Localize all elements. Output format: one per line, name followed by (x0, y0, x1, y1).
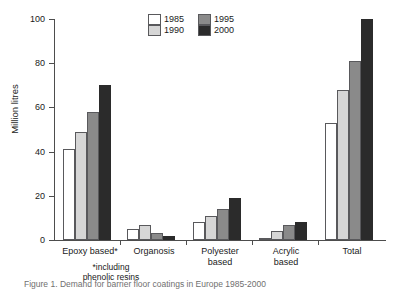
y-axis-title: Million litres (10, 59, 20, 159)
x-label-acrylic: Acrylic based (252, 246, 320, 267)
bar-total-1995 (349, 61, 361, 240)
y-tick-label-100: 100 (30, 15, 45, 24)
bar-acrylic-1985 (259, 238, 271, 240)
plot-area (55, 19, 385, 240)
x-label-acrylic-line1: Acrylic (273, 246, 300, 256)
bar-acrylic-2000 (295, 222, 307, 240)
y-tick-label-0: 0 (40, 236, 45, 245)
y-tick-mark-0 (49, 240, 55, 241)
x-label-polyester: Polyester based (186, 246, 254, 267)
x-label-acrylic-line2: based (274, 257, 299, 267)
y-tick-label-80: 80 (35, 59, 45, 68)
bar-acrylic-1995 (283, 225, 295, 240)
x-label-organosis: Organosis (120, 246, 188, 257)
bar-epoxy-1995 (87, 112, 99, 240)
bar-polyester-1990 (205, 216, 217, 240)
bar-organosis-1990 (139, 225, 151, 240)
bar-total-1990 (337, 90, 349, 240)
bar-group-epoxy-bars (63, 19, 111, 240)
bar-group-polyester-bars (193, 19, 241, 240)
figure-caption: Figure 1. Demand for barrier floor coati… (24, 279, 384, 289)
y-tick-label-20: 20 (35, 192, 45, 201)
y-tick-label-40: 40 (35, 148, 45, 157)
x-tick-separator-2 (186, 240, 187, 245)
bar-epoxy-1985 (63, 149, 75, 240)
bar-epoxy-1990 (75, 132, 87, 240)
x-label-polyester-line2: based (208, 257, 233, 267)
x-tick-separator-4 (318, 240, 319, 245)
bar-epoxy-2000 (99, 85, 111, 240)
bar-total-1985 (325, 123, 337, 240)
bar-polyester-1995 (217, 209, 229, 240)
bar-polyester-2000 (229, 198, 241, 240)
x-label-epoxy: Epoxy based* (56, 246, 124, 257)
bar-group-acrylic-bars (259, 19, 307, 240)
bar-organosis-2000 (163, 236, 175, 240)
x-label-polyester-line1: Polyester (201, 246, 239, 256)
x-axis-line (54, 240, 386, 241)
bar-organosis-1985 (127, 229, 139, 240)
bar-total-2000 (361, 19, 373, 240)
x-tick-separator-1 (120, 240, 121, 245)
bar-acrylic-1990 (271, 231, 283, 240)
bar-organosis-1995 (151, 233, 163, 240)
y-tick-label-60: 60 (35, 103, 45, 112)
bar-group-total-bars (325, 19, 373, 240)
bar-polyester-1985 (193, 222, 205, 240)
x-tick-separator-3 (252, 240, 253, 245)
footnote-line1: *including (93, 262, 130, 272)
bar-group-organosis-bars (127, 19, 175, 240)
x-label-total: Total (318, 246, 386, 257)
